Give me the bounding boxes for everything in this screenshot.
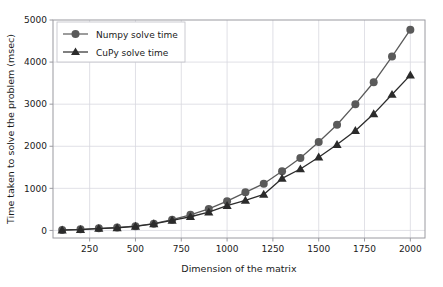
y-axis-label: Time taken to solve the problem (msec) (5, 34, 16, 225)
x-tick-label: 250 (81, 244, 98, 254)
x-axis-label: Dimension of the matrix (181, 263, 297, 274)
circle-marker-icon (72, 30, 80, 38)
chart-legend: Numpy solve time CuPy solve time (57, 22, 185, 62)
x-tick-label: 1750 (353, 244, 376, 254)
circle-marker-icon (260, 180, 268, 188)
y-tick-label: 0 (41, 226, 47, 236)
y-tick-label: 2000 (24, 141, 47, 151)
y-tick-label: 4000 (24, 57, 47, 67)
circle-marker-icon (406, 26, 414, 34)
y-tick-label: 5000 (24, 15, 47, 25)
line-chart: 25050075010001250150017502000 0100020003… (0, 0, 443, 287)
x-tick-label: 500 (127, 244, 144, 254)
x-tick-label: 1000 (216, 244, 239, 254)
legend-label-cupy: CuPy solve time (96, 48, 169, 58)
x-tick-label: 1500 (307, 244, 330, 254)
y-tick-label: 3000 (24, 99, 47, 109)
x-tick-label: 750 (173, 244, 190, 254)
x-tick-label: 2000 (399, 244, 422, 254)
circle-marker-icon (388, 53, 396, 61)
x-tick-label: 1250 (261, 244, 284, 254)
chart-figure: 25050075010001250150017502000 0100020003… (0, 0, 443, 287)
circle-marker-icon (351, 100, 359, 108)
legend-label-numpy: Numpy solve time (96, 30, 178, 40)
circle-marker-icon (296, 154, 304, 162)
circle-marker-icon (370, 78, 378, 86)
circle-marker-icon (333, 121, 341, 129)
circle-marker-icon (315, 138, 323, 146)
circle-marker-icon (241, 188, 249, 196)
y-tick-label: 1000 (24, 184, 47, 194)
